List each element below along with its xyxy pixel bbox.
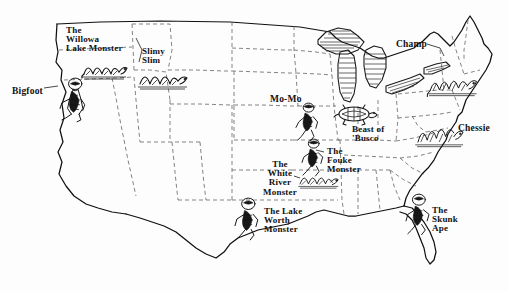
cryptid-label-white-river-monster[interactable]: The White River Monster <box>253 160 307 197</box>
cryptid-label-slimy-slim[interactable]: Slimy Slim <box>142 47 165 65</box>
giant-turtle-icon <box>334 105 377 125</box>
lake-erie <box>386 74 424 94</box>
cryptid-label-lake-worth-monster[interactable]: The Lake Worth Monster <box>264 207 302 235</box>
cryptid-label-champ[interactable]: Champ <box>396 40 427 50</box>
cryptid-map: Bigfoot The Willowa Lake Monster Slimy S… <box>0 0 509 291</box>
cryptid-label-skunk-ape[interactable]: The Skunk Ape <box>432 206 458 234</box>
lake-serpent-icon <box>138 77 187 89</box>
lake-ontario <box>424 62 450 74</box>
skunk-ape-icon <box>406 194 429 234</box>
lake-michigan <box>338 50 356 102</box>
cryptid-label-fouke-monster[interactable]: The Fouke Monster <box>327 147 361 175</box>
lake-serpent-icon <box>427 81 477 97</box>
hairy-hominid-icon <box>235 198 258 240</box>
cryptid-label-beast-of-busco[interactable]: Beast of 'Busco <box>352 125 384 143</box>
cryptid-label-bigfoot[interactable]: Bigfoot <box>12 87 43 97</box>
cryptid-label-chessie[interactable]: Chessie <box>458 124 490 134</box>
lake-serpent-icon <box>82 68 127 80</box>
sea-serpent-icon <box>415 129 463 146</box>
cryptid-label-mo-mo[interactable]: Mo-Mo <box>270 95 302 105</box>
cryptid-label-willowa-lake-monster[interactable]: The Willowa Lake Monster <box>66 26 123 54</box>
hairy-hominid-icon <box>296 103 318 141</box>
